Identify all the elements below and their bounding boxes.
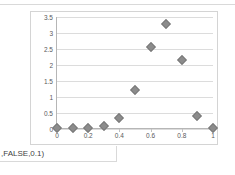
x-tick-label: 0.2 [84, 132, 93, 140]
data-point[interactable] [114, 113, 124, 123]
gridline [57, 49, 213, 50]
y-tick-label: 1.5 [44, 78, 53, 85]
x-tick-label: 0.6 [146, 132, 155, 140]
y-tick-label: 1 [49, 94, 53, 101]
x-tick-label: 1 [211, 132, 215, 140]
formula-bar-row: ,FALSE,0.1) [0, 146, 235, 175]
gridline [57, 33, 213, 34]
data-point[interactable] [146, 42, 156, 52]
chart-container[interactable]: 00.511.522.533.5 00.20.40.60.81 [30, 11, 218, 145]
y-tick-label: 2.5 [44, 46, 53, 53]
gridline [57, 17, 213, 18]
x-tick-label: 0.4 [115, 132, 124, 140]
chart-plot: 00.511.522.533.5 00.20.40.60.81 [31, 12, 217, 144]
spreadsheet-page: 00.511.522.533.5 00.20.40.60.81 ,FALSE,0… [0, 0, 235, 175]
gridline [57, 129, 213, 130]
y-axis-labels: 00.511.522.533.5 [31, 12, 55, 146]
y-tick-label: 3 [49, 30, 53, 37]
y-tick-label: 0.5 [44, 110, 53, 117]
gridline [57, 113, 213, 114]
data-point[interactable] [177, 55, 187, 65]
formula-cell[interactable]: ,FALSE,0.1) [0, 146, 117, 162]
gridline [57, 65, 213, 66]
y-tick-label: 2 [49, 62, 53, 69]
data-point[interactable] [130, 85, 140, 95]
page-top-divider [0, 4, 235, 5]
y-tick-label: 3.5 [44, 14, 53, 21]
gridline [57, 81, 213, 82]
x-tick-label: 0 [55, 132, 59, 140]
plot-canvas [57, 17, 213, 129]
formula-text: ,FALSE,0.1) [1, 148, 44, 160]
gridline [57, 97, 213, 98]
x-axis-labels: 00.20.40.60.81 [57, 132, 213, 142]
x-tick-label: 0.8 [177, 132, 186, 140]
data-point[interactable] [161, 19, 171, 29]
